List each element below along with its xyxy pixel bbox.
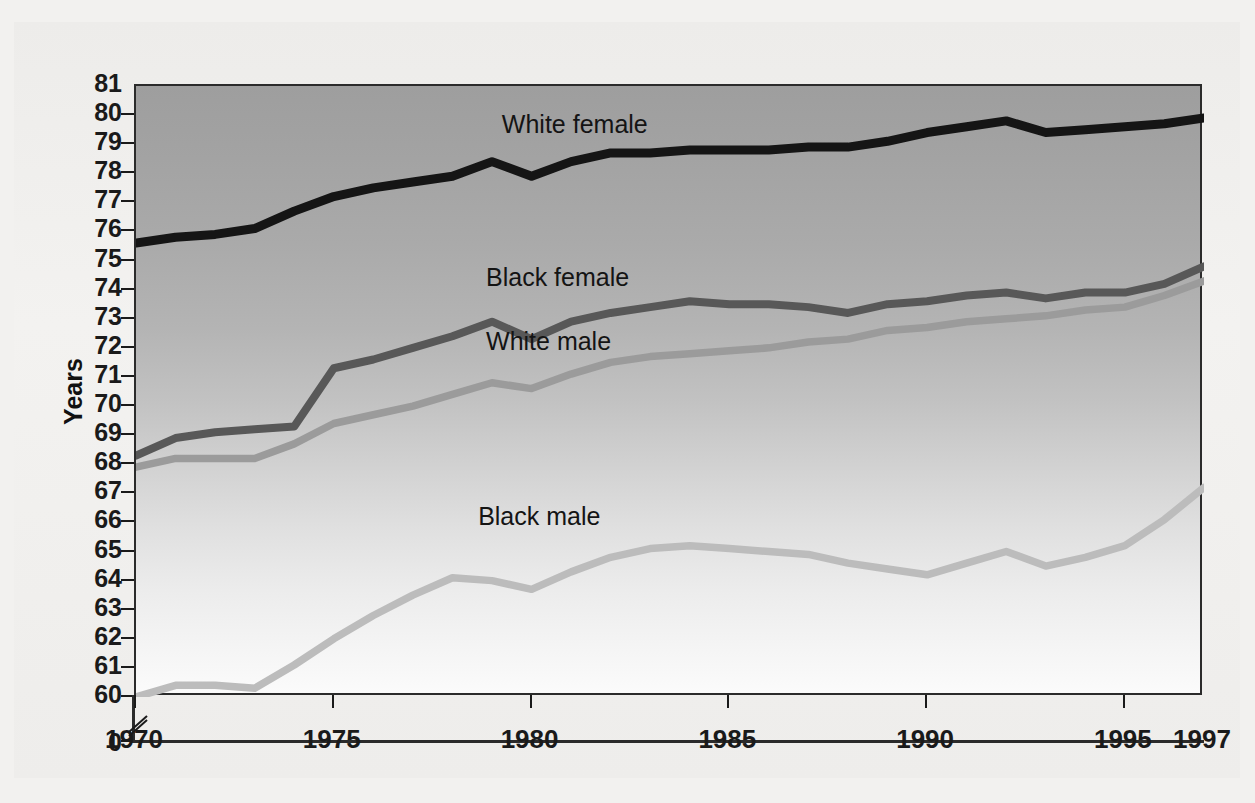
y-axis-tick-label: 70 <box>58 391 122 416</box>
y-axis-tick-label: 74 <box>58 275 122 300</box>
y-axis-tick <box>121 637 134 639</box>
x-axis-tick-label: 1990 <box>865 724 985 755</box>
y-axis-tick <box>121 520 134 522</box>
y-axis-tick <box>121 142 134 144</box>
y-axis-tick-label: 60 <box>58 682 122 707</box>
y-axis-tick-label: 72 <box>58 333 122 358</box>
series-line-black-female <box>136 266 1204 455</box>
y-axis-tick <box>121 113 134 115</box>
y-axis-tick-label: 73 <box>58 304 122 329</box>
chart-panel: Years 8180797877767574737271706968676665… <box>14 22 1240 778</box>
series-line-white-female <box>136 118 1204 243</box>
x-axis-tick-label: 1985 <box>667 724 787 755</box>
y-axis-tick <box>121 550 134 552</box>
y-axis-tick-label: 78 <box>58 158 122 183</box>
y-axis-tick-label: 64 <box>58 566 122 591</box>
series-lines-svg <box>136 86 1204 697</box>
x-axis-tick <box>530 695 532 708</box>
y-axis-tick-label: 68 <box>58 449 122 474</box>
y-axis-tick <box>121 288 134 290</box>
y-axis-tick-label: 75 <box>58 246 122 271</box>
x-axis-tick-label: 1997 <box>1142 724 1255 755</box>
y-axis-tick <box>121 200 134 202</box>
y-axis-tick-label: 79 <box>58 129 122 154</box>
y-axis-tick <box>121 404 134 406</box>
chart-figure: Years 8180797877767574737271706968676665… <box>0 0 1255 803</box>
y-axis-tick-label: 80 <box>58 100 122 125</box>
y-axis-tick <box>121 375 134 377</box>
y-axis-tick <box>121 346 134 348</box>
y-axis-tick-label: 76 <box>58 216 122 241</box>
y-axis-tick-label: 65 <box>58 537 122 562</box>
y-axis-tick-label: 77 <box>58 187 122 212</box>
series-line-white-male <box>136 281 1204 467</box>
y-axis-tick-label: 63 <box>58 595 122 620</box>
y-axis-tick <box>121 433 134 435</box>
y-axis-tick-label: 67 <box>58 478 122 503</box>
plot-wrapper: 1970197519801985199019951997 White femal… <box>134 84 1202 749</box>
y-axis-tick <box>121 491 134 493</box>
y-axis-tick <box>121 259 134 261</box>
x-axis-tick <box>727 695 729 708</box>
y-axis-tick <box>121 317 134 319</box>
y-axis-tick-label: 71 <box>58 362 122 387</box>
y-axis-tick-label: 66 <box>58 507 122 532</box>
y-axis-tick <box>121 462 134 464</box>
x-axis-tick-label: 1980 <box>470 724 590 755</box>
y-axis-tick <box>121 171 134 173</box>
y-axis-tick-label: 62 <box>58 624 122 649</box>
y-axis-tick <box>121 579 134 581</box>
series-label-black-female: Black female <box>486 263 629 292</box>
y-axis-tick <box>121 666 134 668</box>
x-axis-tick <box>332 695 334 708</box>
y-axis-tick-label: 61 <box>58 653 122 678</box>
y-axis-tick <box>121 608 134 610</box>
x-axis-tick <box>1123 695 1125 708</box>
y-axis-tick-label: 81 <box>58 71 122 96</box>
series-label-white-male: White male <box>486 327 611 356</box>
plot-area <box>134 84 1202 695</box>
series-label-black-male: Black male <box>478 502 600 531</box>
series-line-black-male <box>136 488 1204 697</box>
x-axis-tick <box>134 695 136 708</box>
y-axis-tick-label: 69 <box>58 420 122 445</box>
x-axis-tick-label: 1970 <box>74 724 194 755</box>
y-axis-tick <box>121 229 134 231</box>
series-label-white-female: White female <box>502 110 648 139</box>
x-axis-tick <box>925 695 927 708</box>
x-axis-tick-label: 1975 <box>272 724 392 755</box>
